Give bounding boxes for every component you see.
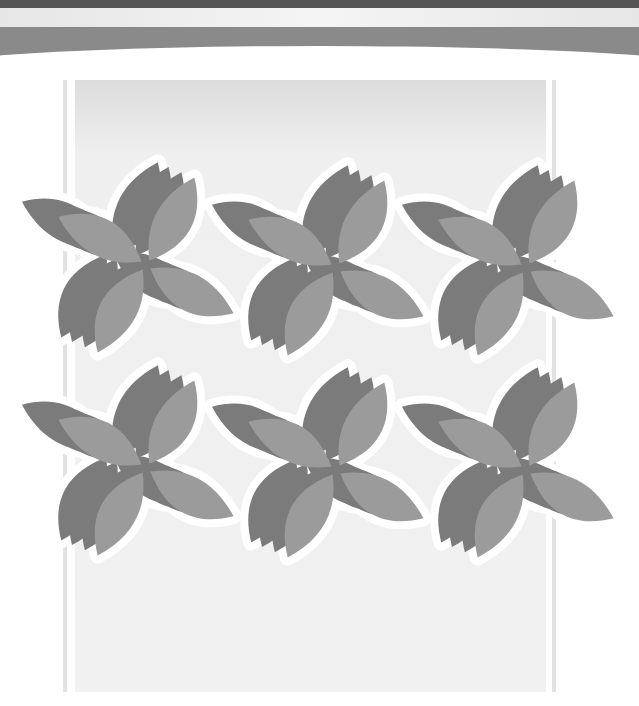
flower-tile	[19, 358, 236, 563]
flower-tile	[209, 158, 426, 363]
flower-tile	[19, 155, 236, 360]
flower-tile	[399, 360, 616, 565]
flower-tile	[209, 360, 426, 565]
flower-pattern	[0, 0, 639, 706]
flower-tile	[399, 158, 616, 363]
